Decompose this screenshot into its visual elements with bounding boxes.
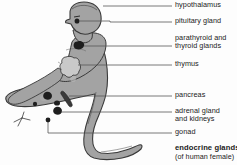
label-adrenal-gland-and-kidneys: adrenal gland and kidneys (175, 107, 220, 124)
adrenal-marker-icon (54, 100, 60, 105)
leader-line-gonad (48, 122, 172, 133)
thymus-marker-icon (60, 56, 81, 77)
gonad-marker-icon (46, 118, 51, 123)
kidney-upper-marker-icon (43, 92, 52, 100)
hand-detail (14, 112, 30, 126)
pituitary-marker-icon (75, 18, 80, 23)
body-silhouette (6, 2, 142, 160)
kidney-marker-icon (53, 107, 62, 115)
abdominal-marker-icon (33, 102, 37, 106)
endocrine-glands-diagram: hypothalamus pituitary gland parathyroid… (0, 0, 237, 165)
label-pancreas: pancreas (175, 91, 205, 99)
caption-subtitle: (of human female) (175, 153, 234, 161)
label-pituitary-gland: pituitary gland (175, 17, 221, 25)
label-parathyroid-and-thyroid-glands: parathyroid and thyroid glands (175, 34, 226, 51)
label-gonad: gonad (175, 128, 196, 136)
label-thymus: thymus (175, 60, 199, 68)
head (66, 2, 102, 34)
label-hypothalamus: hypothalamus (175, 1, 221, 9)
